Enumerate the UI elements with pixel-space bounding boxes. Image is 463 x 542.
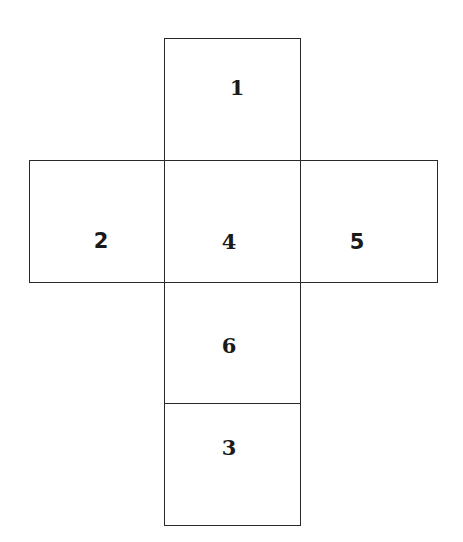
face-label-bottom: 3 [222,437,237,458]
face-label-center: 4 [222,231,237,252]
face-label-right: 5 [350,232,365,253]
face-label-left: 2 [94,231,109,252]
face-left [29,160,165,283]
face-label-top: 1 [230,77,245,98]
face-top [164,38,301,161]
face-bottom [164,403,301,526]
face-label-below: 6 [222,335,237,356]
face-right [300,160,438,283]
face-center [164,160,301,283]
